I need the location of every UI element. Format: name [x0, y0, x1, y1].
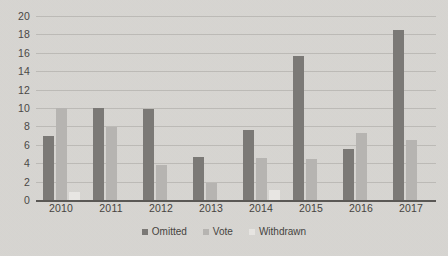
bar — [243, 130, 254, 200]
bar — [293, 56, 304, 200]
bar — [56, 108, 67, 200]
bar-group — [386, 16, 436, 200]
bar — [306, 159, 317, 200]
bar — [356, 133, 367, 200]
legend-label: Vote — [213, 226, 233, 237]
bar-group — [136, 16, 186, 200]
y-axis-tick-label: 2 — [24, 176, 30, 188]
legend-item[interactable]: Vote — [203, 226, 233, 237]
y-axis-tick-label: 0 — [24, 194, 30, 206]
bar-groups — [36, 16, 436, 200]
y-axis-tick-label: 20 — [18, 10, 30, 22]
bar-group — [86, 16, 136, 200]
bar — [93, 108, 104, 200]
y-axis-tick-label: 6 — [24, 139, 30, 151]
bar-group — [336, 16, 386, 200]
bar — [393, 30, 404, 200]
bar — [156, 165, 167, 200]
y-axis-tick-label: 10 — [18, 102, 30, 114]
bar — [106, 127, 117, 200]
plot-area: 20181614121086420 — [36, 16, 436, 200]
y-axis-tick-label: 18 — [18, 28, 30, 40]
chart-canvas: 20181614121086420 2010201120122013201420… — [0, 0, 448, 256]
bar — [143, 109, 154, 200]
legend-label: Withdrawn — [259, 226, 306, 237]
bar — [206, 183, 217, 200]
x-axis-tick-label: 2013 — [186, 202, 236, 214]
bar-group — [236, 16, 286, 200]
legend-swatch-icon — [142, 229, 148, 235]
y-axis-tick-label: 8 — [24, 120, 30, 132]
bar — [406, 140, 417, 200]
legend-swatch-icon — [203, 229, 209, 235]
x-axis-tick-label: 2016 — [336, 202, 386, 214]
bar-group — [186, 16, 236, 200]
legend-item[interactable]: Withdrawn — [249, 226, 306, 237]
legend-label: Omitted — [152, 226, 187, 237]
legend-item[interactable]: Omitted — [142, 226, 187, 237]
bar — [193, 157, 204, 200]
x-axis-tick-label: 2010 — [36, 202, 86, 214]
y-axis-tick-label: 4 — [24, 157, 30, 169]
x-axis-labels: 20102011201220132014201520162017 — [36, 202, 436, 214]
legend-swatch-icon — [249, 229, 255, 235]
bar — [69, 192, 80, 200]
y-axis-tick-label: 16 — [18, 47, 30, 59]
bar — [256, 158, 267, 200]
chart-legend: OmittedVoteWithdrawn — [0, 226, 448, 237]
bar — [343, 149, 354, 200]
bar — [269, 190, 280, 200]
x-axis-tick-label: 2011 — [86, 202, 136, 214]
x-axis-tick-label: 2012 — [136, 202, 186, 214]
x-axis-tick-label: 2015 — [286, 202, 336, 214]
bar-group — [36, 16, 86, 200]
y-axis-tick-label: 14 — [18, 65, 30, 77]
bar-group — [286, 16, 336, 200]
y-axis-tick-label: 12 — [18, 84, 30, 96]
x-axis-tick-label: 2017 — [386, 202, 436, 214]
x-axis-tick-label: 2014 — [236, 202, 286, 214]
bar — [43, 136, 54, 200]
